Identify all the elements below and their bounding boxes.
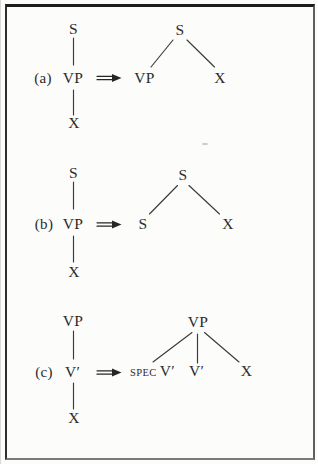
- panel-a-left-node-mid: VP: [63, 70, 83, 86]
- scan-artifact: [202, 143, 208, 145]
- rewrite-arrow-icon: [97, 220, 122, 228]
- panel-b-left-node-mid: VP: [63, 216, 83, 232]
- panel-c-right-node-child3: X: [241, 363, 253, 379]
- panel-a-left-node-root: S: [69, 21, 78, 37]
- panel-c-left-node-root: VP: [63, 313, 83, 329]
- panel-c-left-node-mid: V′: [65, 364, 80, 380]
- panel-c-left-node-leaf: X: [68, 410, 80, 426]
- panel-b-label: (b): [35, 216, 53, 231]
- tree-edge: [187, 40, 215, 67]
- rewrite-arrow-icon: [97, 368, 122, 376]
- panel-a-left-node-leaf: X: [68, 115, 80, 131]
- panel-c-label: (c): [35, 365, 53, 380]
- panel-a-right-node-child2: X: [214, 70, 226, 86]
- panel-a-label: (a): [34, 70, 52, 85]
- tree-edge: [150, 186, 178, 215]
- panel-b-right-node-root: S: [179, 167, 188, 183]
- panel-a-right-node-root: S: [176, 22, 185, 38]
- tree-edge: [153, 333, 192, 363]
- rewrite-arrow-icon: [97, 74, 122, 82]
- figure-canvas: (a) S VP X S VP X (b) S VP X S S X (c) V…: [0, 0, 318, 464]
- tree-edge: [189, 186, 220, 215]
- panel-b-right-node-child1: S: [139, 216, 148, 232]
- panel-b-left-node-root: S: [69, 165, 78, 181]
- spec-label: SPEC: [130, 367, 157, 378]
- spec-head-label: V′: [160, 362, 175, 379]
- panel-c-right-node-child2: V′: [189, 363, 204, 379]
- panel-c-right-node-spec: SPECV′: [130, 363, 175, 379]
- panel-a-right-node-child1: VP: [134, 70, 154, 86]
- panel-b-left-node-leaf: X: [68, 264, 80, 280]
- panel-b-right-node-child2: X: [222, 216, 234, 232]
- tree-edge: [151, 40, 173, 67]
- tree-edge: [205, 333, 240, 363]
- panel-c-right-node-root: VP: [188, 314, 208, 330]
